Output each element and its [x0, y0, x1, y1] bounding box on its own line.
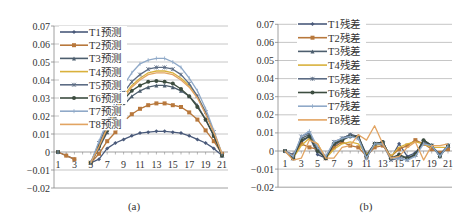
- legend-label: T3预测: [89, 52, 121, 64]
- x-tick-label: 19: [427, 158, 437, 169]
- legend-item: T8残差: [297, 114, 366, 126]
- legend-item: T1预测: [59, 26, 127, 38]
- x-tick-label: 13: [378, 158, 388, 169]
- x-tick-label: 7: [105, 159, 110, 170]
- legend-item: T5预测: [59, 79, 127, 91]
- y-tick-label: 0: [45, 147, 50, 158]
- legend-label: T1预测: [89, 26, 121, 38]
- legend-label: T2残差: [328, 32, 360, 44]
- y-tick-label: 0.06: [257, 37, 275, 48]
- chart-b: 0.070.060.050.040.030.020.010−0.01−0.021…: [251, 18, 453, 193]
- legend-label: T2预测: [89, 39, 121, 51]
- x-tick-label: 7: [331, 158, 336, 169]
- legend-item: T5残差: [297, 73, 366, 85]
- legend-item: T7残差: [297, 100, 366, 112]
- legend-label: T3残差: [328, 45, 360, 57]
- x-tick-label: 21: [443, 158, 453, 169]
- y-tick-label: 0.04: [33, 75, 51, 86]
- x-tick-label: 5: [315, 158, 320, 169]
- y-tick-label: 0.03: [257, 91, 275, 102]
- caption-b: (b): [360, 200, 373, 213]
- legend-label: T1残差: [328, 18, 360, 30]
- legend-label: T4预测: [89, 66, 121, 78]
- x-tick-label: 13: [151, 159, 161, 170]
- chart-a: 0.070.060.050.040.030.020.010−0.01−0.021…: [27, 21, 228, 194]
- legend-item: T7预测: [59, 105, 127, 117]
- y-tick-label: 0.01: [33, 129, 51, 140]
- y-tick-label: 0.07: [33, 21, 51, 32]
- x-tick-label: 11: [135, 159, 145, 170]
- legend-item: T6残差: [297, 87, 366, 99]
- x-tick-label: 17: [184, 159, 194, 170]
- y-tick-label: 0.07: [257, 19, 275, 30]
- y-tick-label: 0.02: [257, 109, 275, 120]
- legend-label: T6预测: [89, 92, 121, 104]
- y-tick-label: 0.05: [33, 57, 51, 68]
- x-tick-label: 21: [217, 159, 227, 170]
- legend-item: T3预测: [59, 52, 127, 64]
- legend-label: T7残差: [328, 100, 360, 112]
- y-tick-label: −0.02: [27, 183, 50, 194]
- x-tick-label: 3: [299, 158, 304, 169]
- x-tick-label: 9: [121, 159, 126, 170]
- legend-label: T6残差: [328, 87, 360, 99]
- figure-svg: 0.070.060.050.040.030.020.010−0.01−0.021…: [0, 0, 472, 224]
- legend-label: T4残差: [328, 59, 360, 71]
- x-tick-label: 1: [56, 159, 61, 170]
- x-tick-label: 17: [410, 158, 420, 169]
- x-tick-label: 19: [201, 159, 211, 170]
- caption-a: (a): [128, 200, 141, 213]
- y-tick-label: −0.02: [251, 182, 274, 193]
- legend-item: T2残差: [297, 32, 366, 44]
- legend-item: T4预测: [59, 66, 127, 78]
- y-tick-label: 0.03: [33, 93, 51, 104]
- legend-item: T1残差: [297, 18, 366, 30]
- figure: 0.070.060.050.040.030.020.010−0.01−0.021…: [0, 0, 472, 224]
- y-tick-label: 0.05: [257, 55, 275, 66]
- x-tick-label: 15: [168, 159, 178, 170]
- legend-item: T4残差: [297, 59, 366, 71]
- y-tick-label: 0: [269, 146, 274, 157]
- y-tick-label: 0.06: [33, 39, 51, 50]
- y-tick-label: 0.01: [257, 127, 275, 138]
- legend-item: T2预测: [59, 39, 127, 51]
- legend-label: T5预测: [89, 79, 121, 91]
- legend-item: T8预测: [59, 118, 127, 130]
- legend-item: T3残差: [297, 45, 366, 57]
- legend-label: T8预测: [89, 118, 121, 130]
- legend-label: T8残差: [328, 114, 360, 126]
- y-tick-label: −0.01: [251, 164, 274, 175]
- y-tick-label: 0.02: [33, 111, 51, 122]
- x-tick-label: 1: [283, 158, 288, 169]
- y-tick-label: −0.01: [27, 165, 50, 176]
- legend-label: T7预测: [89, 105, 121, 117]
- x-tick-label: 9: [348, 158, 353, 169]
- legend-item: T6预测: [59, 92, 127, 104]
- legend-label: T5残差: [328, 73, 360, 85]
- y-tick-label: 0.04: [257, 73, 275, 84]
